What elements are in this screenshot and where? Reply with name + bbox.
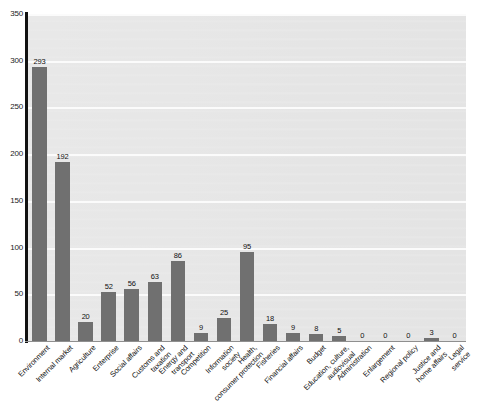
bar[interactable]: 63: [148, 272, 163, 341]
bar-rectangle: [124, 289, 139, 341]
bar[interactable]: 0: [355, 331, 370, 341]
bar[interactable]: 0: [447, 331, 462, 341]
bar-value-label: 3: [429, 328, 433, 337]
bar[interactable]: 0: [401, 331, 416, 341]
bar-rectangle: [101, 292, 116, 341]
bar-rectangle: [194, 333, 209, 341]
bar-rectangle: [78, 322, 93, 341]
bar[interactable]: 52: [101, 282, 116, 341]
bar-rectangle: [148, 282, 163, 341]
bar-value-label: 9: [199, 323, 203, 332]
gridline: [28, 201, 466, 203]
bar-rectangle: [286, 333, 301, 341]
bar[interactable]: 25: [217, 308, 232, 341]
gridline: [28, 14, 466, 16]
bar-value-label: 95: [243, 242, 251, 251]
bar-value-label: 25: [220, 308, 228, 317]
bar[interactable]: 18: [263, 314, 278, 341]
bar[interactable]: 9: [286, 323, 301, 341]
x-axis-line: [25, 341, 466, 342]
bar[interactable]: 8: [309, 324, 324, 341]
bar-value-label: 5: [337, 326, 341, 335]
bar-rectangle: [55, 162, 70, 341]
bar-rectangle: [32, 67, 47, 341]
gridline: [28, 154, 466, 156]
bar[interactable]: 20: [78, 312, 93, 341]
bar-rectangle: [171, 261, 186, 341]
bar-value-label: 0: [360, 331, 364, 340]
bar[interactable]: 293: [32, 57, 47, 341]
bar-value-label: 8: [314, 324, 318, 333]
bar[interactable]: 3: [424, 328, 439, 341]
bar-chart: 2931922052566386925951898500030 05010015…: [0, 0, 479, 413]
bar-value-label: 0: [383, 331, 387, 340]
x-axis-category-labels: EnvironmentInternal marketAgricultureEnt…: [28, 344, 466, 413]
y-axis-tick-label: 200: [0, 150, 23, 158]
bar-value-label: 192: [57, 152, 69, 161]
bar-value-label: 20: [82, 312, 90, 321]
y-axis-tick-label: 100: [0, 244, 23, 252]
y-axis-tick-label: 350: [0, 10, 23, 18]
bar-value-label: 86: [174, 251, 182, 260]
gridline: [28, 107, 466, 109]
gridline: [28, 61, 466, 63]
bar-value-label: 9: [291, 323, 295, 332]
bar-rectangle: [240, 252, 255, 341]
y-axis-tick-label: 300: [0, 57, 23, 65]
bar-value-label: 52: [105, 282, 113, 291]
y-axis-tick-label: 50: [0, 290, 23, 298]
y-axis-line: [25, 12, 28, 343]
bar[interactable]: 0: [378, 331, 393, 341]
bar-rectangle: [217, 318, 232, 341]
y-axis-tick-label: 250: [0, 103, 23, 111]
bar[interactable]: 56: [124, 279, 139, 341]
bar-value-label: 63: [151, 272, 159, 281]
bar-rectangle: [263, 324, 278, 341]
bar[interactable]: 95: [240, 242, 255, 341]
bar[interactable]: 192: [55, 152, 70, 341]
bar[interactable]: 86: [171, 251, 186, 341]
y-axis-tick-labels: 050100150200250300350: [0, 0, 23, 413]
bar[interactable]: 5: [332, 326, 347, 341]
y-axis-tick-label: 0: [0, 337, 23, 345]
plot-area: 2931922052566386925951898500030: [28, 14, 466, 341]
bar-value-label: 293: [34, 57, 46, 66]
bar-rectangle: [309, 334, 324, 341]
bar-value-label: 18: [266, 314, 274, 323]
bar-value-label: 56: [128, 279, 136, 288]
bar[interactable]: 9: [194, 323, 209, 341]
y-axis-tick-label: 150: [0, 197, 23, 205]
bar-value-label: 0: [452, 331, 456, 340]
bar-value-label: 0: [406, 331, 410, 340]
